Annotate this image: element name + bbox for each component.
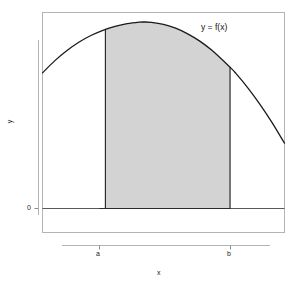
curve-equation-annotation: y = f(x) xyxy=(201,22,227,32)
x-tick-label-a: a xyxy=(96,250,100,257)
figure-canvas: y = f(x) y x 0 a b xyxy=(0,0,303,283)
x-tick-label-b: b xyxy=(227,250,231,257)
y-axis-label: y xyxy=(6,120,13,124)
plot-area xyxy=(0,0,303,283)
x-axis-label: x xyxy=(157,269,161,276)
y-tick-label-zero: 0 xyxy=(27,204,31,211)
